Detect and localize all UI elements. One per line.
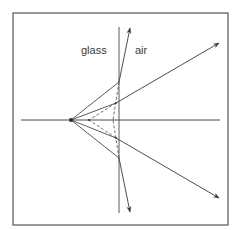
refracted-ray-steep-upper <box>119 28 130 82</box>
hit-point-shallow-upper <box>115 102 117 104</box>
diagram-canvas: glass air <box>0 0 239 230</box>
refracted-ray-steep-lower <box>119 158 130 212</box>
glass-label: glass <box>81 44 107 56</box>
dashed-extension-steep-upper <box>113 82 119 120</box>
refraction-diagram: glass air <box>0 0 239 230</box>
incident-ray-steep-lower <box>71 120 119 158</box>
hit-point-shallow-lower <box>115 137 117 139</box>
figure-frame <box>13 13 228 225</box>
refracted-ray-shallow-lower <box>116 138 219 198</box>
refracted-ray-shallow-upper <box>116 43 219 103</box>
virtual-image-point <box>88 119 90 121</box>
incident-ray-steep-upper <box>71 82 119 120</box>
source-point <box>69 118 73 122</box>
air-label: air <box>135 44 148 56</box>
